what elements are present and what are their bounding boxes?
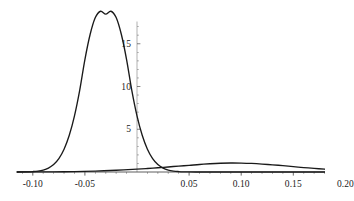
y-tick-label: 15 bbox=[115, 39, 131, 49]
curve-narrow-peak-density bbox=[17, 11, 325, 172]
axis-layer bbox=[17, 22, 325, 176]
x-tick-label: 0.10 bbox=[233, 179, 250, 189]
x-tick-label: -0.10 bbox=[23, 179, 43, 189]
y-tick-label: 5 bbox=[115, 124, 131, 134]
x-tick-label: 0.15 bbox=[285, 179, 302, 189]
x-tick-label: 0.05 bbox=[181, 179, 198, 189]
x-tick-label: 0.20 bbox=[337, 179, 354, 189]
curve-layer bbox=[17, 11, 325, 172]
y-tick-label: 10 bbox=[115, 82, 131, 92]
x-tick-label: -0.05 bbox=[75, 179, 95, 189]
